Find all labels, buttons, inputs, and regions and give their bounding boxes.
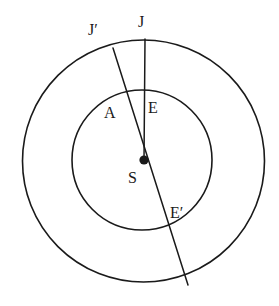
point-label-e: E <box>148 100 158 116</box>
center-point-s <box>139 155 148 164</box>
point-label-j: J <box>138 14 144 30</box>
point-label-a: A <box>104 105 116 121</box>
point-label-j-prime: J′ <box>88 22 98 38</box>
geometry-figure: J′ J A E S E′ <box>0 0 279 306</box>
line-jprime-to-eprime <box>113 48 188 285</box>
point-label-s: S <box>128 170 137 186</box>
diagram-canvas <box>0 0 279 306</box>
point-label-e-prime: E′ <box>170 205 183 221</box>
line-j-to-s <box>144 39 145 160</box>
